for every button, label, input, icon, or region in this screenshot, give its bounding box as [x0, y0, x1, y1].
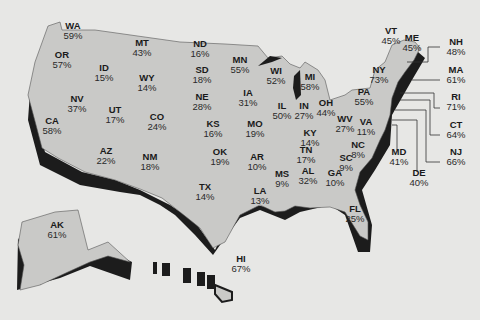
state-label-nv: NV37% — [67, 94, 86, 114]
state-label-mo: MO19% — [245, 119, 264, 139]
state-label-wa: WA59% — [63, 21, 82, 41]
state-label-mt: MT43% — [132, 38, 151, 58]
state-label-ne: NE28% — [192, 92, 211, 112]
hawaii — [153, 262, 232, 302]
state-percent: 61% — [47, 230, 66, 240]
state-label-sd: SD18% — [192, 65, 211, 85]
state-percent: 14% — [300, 138, 319, 148]
state-label-il: IL50% — [272, 101, 291, 121]
state-percent: 44% — [316, 108, 335, 118]
state-percent: 17% — [105, 115, 124, 125]
state-percent: 8% — [351, 150, 365, 160]
state-percent: 13% — [250, 196, 269, 206]
state-percent: 24% — [147, 122, 166, 132]
state-label-de: DE40% — [409, 168, 428, 188]
state-percent: 31% — [238, 98, 257, 108]
state-percent: 58% — [42, 126, 61, 136]
state-label-ia: IA31% — [238, 88, 257, 108]
state-label-md: MD41% — [389, 147, 408, 167]
state-percent: 37% — [67, 104, 86, 114]
state-label-mi: MI58% — [300, 72, 319, 92]
state-percent: 15% — [94, 73, 113, 83]
state-label-ri: RI71% — [446, 92, 465, 112]
state-percent: 10% — [247, 162, 266, 172]
state-percent: 27% — [335, 124, 354, 134]
state-label-wv: WV27% — [335, 114, 354, 134]
state-percent: 16% — [203, 129, 222, 139]
state-label-nc: NC8% — [351, 140, 365, 160]
state-label-hi: HI67% — [231, 254, 250, 274]
state-label-ut: UT17% — [105, 105, 124, 125]
state-percent: 16% — [190, 49, 209, 59]
state-percent: 58% — [300, 82, 319, 92]
state-percent: 14% — [137, 83, 156, 93]
state-percent: 11% — [357, 127, 375, 137]
state-percent: 18% — [140, 162, 159, 172]
state-label-ok: OK19% — [210, 147, 229, 167]
state-percent: 50% — [272, 111, 291, 121]
state-label-vt: VT45% — [381, 26, 400, 46]
alaska — [18, 210, 130, 290]
state-percent: 48% — [446, 47, 465, 57]
state-percent: 43% — [132, 48, 151, 58]
state-percent: 14% — [195, 192, 214, 202]
state-percent: 66% — [446, 157, 465, 167]
state-label-in: IN27% — [294, 101, 313, 121]
state-label-la: LA13% — [250, 186, 269, 206]
state-percent: 17% — [296, 155, 315, 165]
state-label-wy: WY14% — [137, 73, 156, 93]
state-label-ak: AK61% — [47, 220, 66, 240]
state-percent: 45% — [402, 43, 421, 53]
state-percent: 25% — [345, 214, 364, 224]
state-label-nh: NH48% — [446, 37, 465, 57]
state-percent: 28% — [192, 102, 211, 112]
state-label-oh: OH44% — [316, 98, 335, 118]
state-percent: 32% — [298, 176, 317, 186]
state-label-al: AL32% — [298, 166, 317, 186]
state-label-ky: KY14% — [300, 128, 319, 148]
state-percent: 52% — [266, 76, 285, 86]
state-label-nd: ND16% — [190, 39, 209, 59]
state-label-ar: AR10% — [247, 152, 266, 172]
state-percent: 10% — [325, 178, 344, 188]
state-percent: 19% — [210, 157, 229, 167]
state-label-me: ME45% — [402, 33, 421, 53]
state-label-ny: NY73% — [369, 65, 388, 85]
state-label-ms: MS9% — [275, 169, 289, 189]
state-percent: 45% — [381, 36, 400, 46]
state-percent: 67% — [231, 264, 250, 274]
state-percent: 73% — [369, 75, 388, 85]
state-percent: 22% — [96, 156, 115, 166]
state-label-ma: MA61% — [446, 65, 465, 85]
state-percent: 40% — [409, 178, 428, 188]
state-percent: 64% — [446, 130, 465, 140]
state-label-co: CO24% — [147, 112, 166, 132]
state-percent: 9% — [339, 163, 353, 173]
state-label-mn: MN55% — [230, 55, 249, 75]
state-percent: 61% — [446, 75, 465, 85]
state-label-tn: TN17% — [296, 145, 315, 165]
state-label-tx: TX14% — [195, 182, 214, 202]
state-label-ca: CA58% — [42, 116, 61, 136]
state-percent: 18% — [192, 75, 211, 85]
state-label-wi: WI52% — [266, 66, 285, 86]
state-percent: 41% — [389, 157, 408, 167]
state-percent: 59% — [63, 31, 82, 41]
state-percent: 55% — [230, 65, 249, 75]
state-label-or: OR57% — [52, 50, 71, 70]
state-label-pa: PA55% — [354, 87, 373, 107]
state-label-az: AZ22% — [96, 146, 115, 166]
state-percent: 9% — [275, 179, 289, 189]
us-map: WA59%OR57%ID15%MT43%WY14%ND16%SD18%NE28%… — [0, 0, 480, 320]
state-label-fl: FL25% — [345, 204, 364, 224]
state-percent: 55% — [354, 97, 373, 107]
state-label-nj: NJ66% — [446, 147, 465, 167]
state-label-nm: NM18% — [140, 152, 159, 172]
state-percent: 71% — [446, 102, 465, 112]
state-label-ks: KS16% — [203, 119, 222, 139]
state-percent: 19% — [245, 129, 264, 139]
state-label-id: ID15% — [94, 63, 113, 83]
state-percent: 27% — [294, 111, 313, 121]
state-label-va: VA11% — [357, 117, 375, 137]
state-label-ct: CT64% — [446, 120, 465, 140]
